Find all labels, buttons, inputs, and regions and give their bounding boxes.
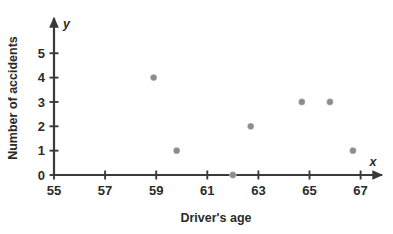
y-axis-tick-label: 2 (38, 119, 45, 134)
x-axis-tick-label: 55 (47, 183, 61, 198)
x-axis-tick-label: 57 (98, 183, 112, 198)
data-point (229, 172, 236, 179)
y-axis-tick-label: 3 (38, 95, 45, 110)
x-axis-letter-label: x (369, 155, 378, 169)
data-point (327, 99, 334, 106)
data-point (150, 74, 157, 81)
data-point (173, 147, 180, 154)
x-axis-tick-label: 59 (149, 183, 163, 198)
y-axis-tick-label: 0 (38, 168, 45, 183)
x-axis-tick-label: 67 (353, 183, 367, 198)
y-axis-tick-label: 4 (38, 70, 46, 85)
x-axis-tick-label: 63 (251, 183, 265, 198)
x-axis-tick-label: 61 (200, 183, 214, 198)
y-axis-title: Number of accidents (6, 36, 20, 160)
y-axis-tick-label: 5 (38, 46, 45, 61)
data-point (298, 99, 305, 106)
y-axis-letter-label: y (62, 17, 71, 31)
data-point (350, 147, 357, 154)
data-point (247, 123, 254, 130)
x-axis-tick-label: 65 (302, 183, 316, 198)
scatter-plot-figure: 55575961636567012345yxDriver's ageNumber… (0, 0, 393, 234)
x-axis-title: Driver's age (180, 211, 251, 225)
scatter-chart-canvas: 55575961636567012345yxDriver's ageNumber… (0, 0, 393, 234)
y-axis-tick-label: 1 (38, 143, 45, 158)
